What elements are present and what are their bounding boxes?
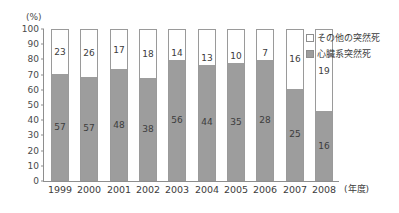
bar-value-other: 13 <box>195 54 219 63</box>
x-tick-label: 2003 <box>160 185 194 195</box>
stacked-bar: 287 <box>256 29 274 181</box>
bar-value-cardiac: 48 <box>111 120 127 129</box>
bar-series-group: 572357264817381856144413351028725161619 <box>44 29 338 181</box>
x-axis-line <box>43 181 339 182</box>
x-axis-unit-label: (年度) <box>344 185 369 194</box>
legend-label-other: その他の突然死 <box>317 31 380 44</box>
bar-value-cardiac: 28 <box>257 116 273 125</box>
bar-value-other: 14 <box>165 49 189 58</box>
bar-value-other: 19 <box>316 66 332 75</box>
bar-value-cardiac: 16 <box>316 141 332 150</box>
bar-value-cardiac: 44 <box>199 118 215 127</box>
x-axis-labels: 1999200020012002200320042005200620072008 <box>44 185 338 201</box>
bar-group: 2516 <box>286 29 304 181</box>
legend-item-other: その他の突然死 <box>306 31 380 44</box>
y-axis-unit-label: (%) <box>26 12 42 22</box>
bar-group: 5726 <box>80 29 98 181</box>
stacked-bar: 5614 <box>168 29 186 181</box>
stacked-bar: 5726 <box>80 29 98 181</box>
bar-group: 5614 <box>168 29 186 181</box>
bar-value-other: 23 <box>52 47 68 56</box>
plot-area: 1009080706050403020100 57235726481738185… <box>44 29 338 181</box>
legend-swatch-white-icon <box>306 34 314 42</box>
stacked-bar: 4817 <box>110 29 128 181</box>
bar-value-cardiac: 38 <box>140 125 156 134</box>
bar-group: 3510 <box>227 29 245 181</box>
legend-item-cardiac: 心臓系突然死 <box>306 47 380 60</box>
bar-value-other: 7 <box>253 49 277 58</box>
bar-value-other: 26 <box>81 49 97 58</box>
bar-group: 3818 <box>139 29 157 181</box>
bar-value-cardiac: 57 <box>52 122 68 131</box>
stacked-bar: 2516 <box>286 29 304 181</box>
bar-group: 4817 <box>110 29 128 181</box>
bar-value-cardiac: 25 <box>287 130 303 139</box>
x-tick-label: 2006 <box>248 185 282 195</box>
bar-group: 287 <box>256 29 274 181</box>
legend-swatch-gray-icon <box>306 50 314 58</box>
stacked-bar: 3510 <box>227 29 245 181</box>
bar-value-cardiac: 35 <box>228 117 244 126</box>
bar-value-other: 16 <box>287 55 303 64</box>
bar-value-other: 17 <box>111 45 127 54</box>
stacked-bar: 4413 <box>198 29 216 181</box>
x-tick-label: 2000 <box>72 185 106 195</box>
legend-label-cardiac: 心臓系突然死 <box>317 47 371 60</box>
stacked-bar: 3818 <box>139 29 157 181</box>
stacked-bar: 5723 <box>51 29 69 181</box>
bar-value-other: 10 <box>224 52 248 61</box>
chart-legend: その他の突然死 心臓系突然死 <box>306 31 380 63</box>
bar-value-other: 18 <box>140 50 156 59</box>
bar-group: 5723 <box>51 29 69 181</box>
bar-group: 4413 <box>198 29 216 181</box>
bar-value-cardiac: 56 <box>169 116 185 125</box>
x-tick-label: 2008 <box>307 185 341 195</box>
chart-container: (%) 1009080706050403020100 5723572648173… <box>0 0 399 213</box>
bar-value-cardiac: 57 <box>81 124 97 133</box>
